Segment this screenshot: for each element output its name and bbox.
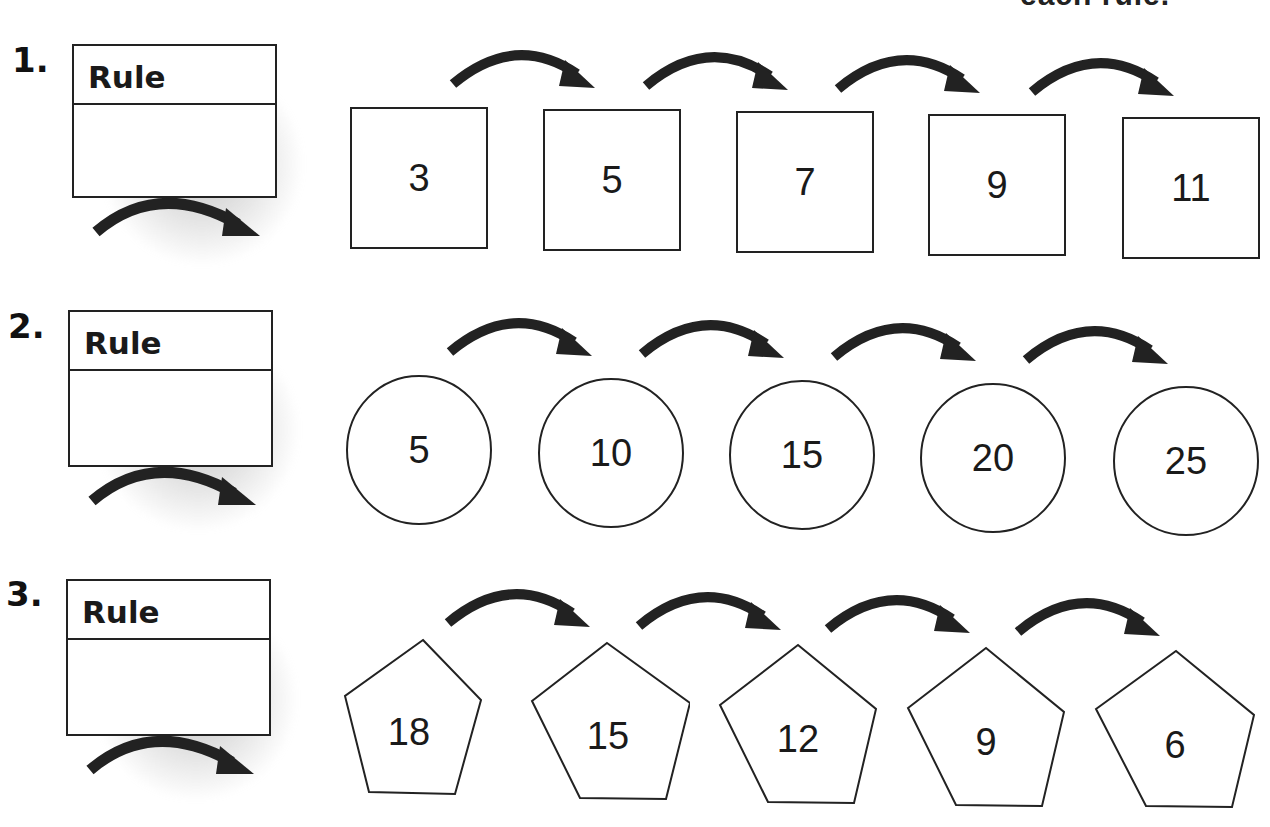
sequence-value: 11 xyxy=(1171,167,1210,210)
sequence-value: 5 xyxy=(408,429,429,472)
sequence-value: 18 xyxy=(388,711,430,754)
sequence-item-square: 11 xyxy=(1122,117,1260,259)
hop-arrow-icon xyxy=(440,583,596,631)
rule-card: Rule xyxy=(68,310,273,467)
sequence-item-pentagon: 6 xyxy=(1094,649,1256,813)
sequence-item-square: 7 xyxy=(736,111,874,253)
rule-box-1: Rule xyxy=(72,44,312,284)
hop-arrow-icon xyxy=(1024,52,1180,100)
curved-arrow-icon xyxy=(88,184,268,244)
rule-answer-field-3[interactable] xyxy=(68,640,269,731)
sequence-value: 7 xyxy=(794,161,815,204)
sequence-value: 15 xyxy=(781,434,823,477)
rule-box-3: Rule xyxy=(66,579,306,819)
row-number-1: 1. xyxy=(12,40,49,80)
rule-answer-field-2[interactable] xyxy=(70,371,271,462)
sequence-item-circle: 20 xyxy=(919,382,1067,534)
sequence-item-square: 5 xyxy=(543,109,681,251)
rule-label: Rule xyxy=(70,312,271,371)
curved-arrow-icon xyxy=(84,453,264,513)
rule-card: Rule xyxy=(66,579,271,736)
hop-arrow-icon xyxy=(631,586,787,634)
sequence-value: 15 xyxy=(587,715,629,758)
sequence-item-circle: 10 xyxy=(537,377,685,529)
sequence-item-circle: 5 xyxy=(345,374,493,526)
sequence-value: 12 xyxy=(777,718,819,761)
sequence-item-pentagon: 18 xyxy=(343,638,483,798)
sequence-value: 20 xyxy=(972,437,1014,480)
hop-arrow-icon xyxy=(634,314,790,362)
row-number-2: 2. xyxy=(8,306,45,346)
sequence-value: 3 xyxy=(408,157,429,200)
sequence-item-circle: 25 xyxy=(1112,385,1260,537)
hop-arrow-icon xyxy=(442,312,598,360)
hop-arrow-icon xyxy=(830,49,986,97)
sequence-item-pentagon: 15 xyxy=(530,641,670,803)
sequence-item-pentagon: 9 xyxy=(906,646,1066,810)
hop-arrow-icon xyxy=(826,317,982,365)
curved-arrow-icon xyxy=(82,722,262,782)
rule-label: Rule xyxy=(74,46,275,105)
sequence-value: 9 xyxy=(986,164,1007,207)
hop-arrow-icon xyxy=(1010,592,1166,640)
rule-card: Rule xyxy=(72,44,277,198)
hop-arrow-icon xyxy=(638,46,794,94)
sequence-value: 9 xyxy=(975,721,996,764)
sequence-value: 10 xyxy=(590,432,632,475)
sequence-item-circle: 15 xyxy=(728,379,876,531)
hop-arrow-icon xyxy=(445,44,601,92)
row-number-3: 3. xyxy=(6,574,43,614)
sequence-item-square: 9 xyxy=(928,114,1066,256)
rule-box-2: Rule xyxy=(68,310,308,550)
hop-arrow-icon xyxy=(1018,320,1174,368)
clipped-instruction-text: each rule. xyxy=(1020,0,1170,12)
rule-answer-field-1[interactable] xyxy=(74,105,275,196)
sequence-value: 25 xyxy=(1165,440,1207,483)
sequence-item-pentagon: 12 xyxy=(718,643,878,807)
sequence-value: 5 xyxy=(601,159,622,202)
rule-label: Rule xyxy=(68,581,269,640)
sequence-value: 6 xyxy=(1164,724,1185,767)
hop-arrow-icon xyxy=(820,589,976,637)
sequence-item-square: 3 xyxy=(350,107,488,249)
